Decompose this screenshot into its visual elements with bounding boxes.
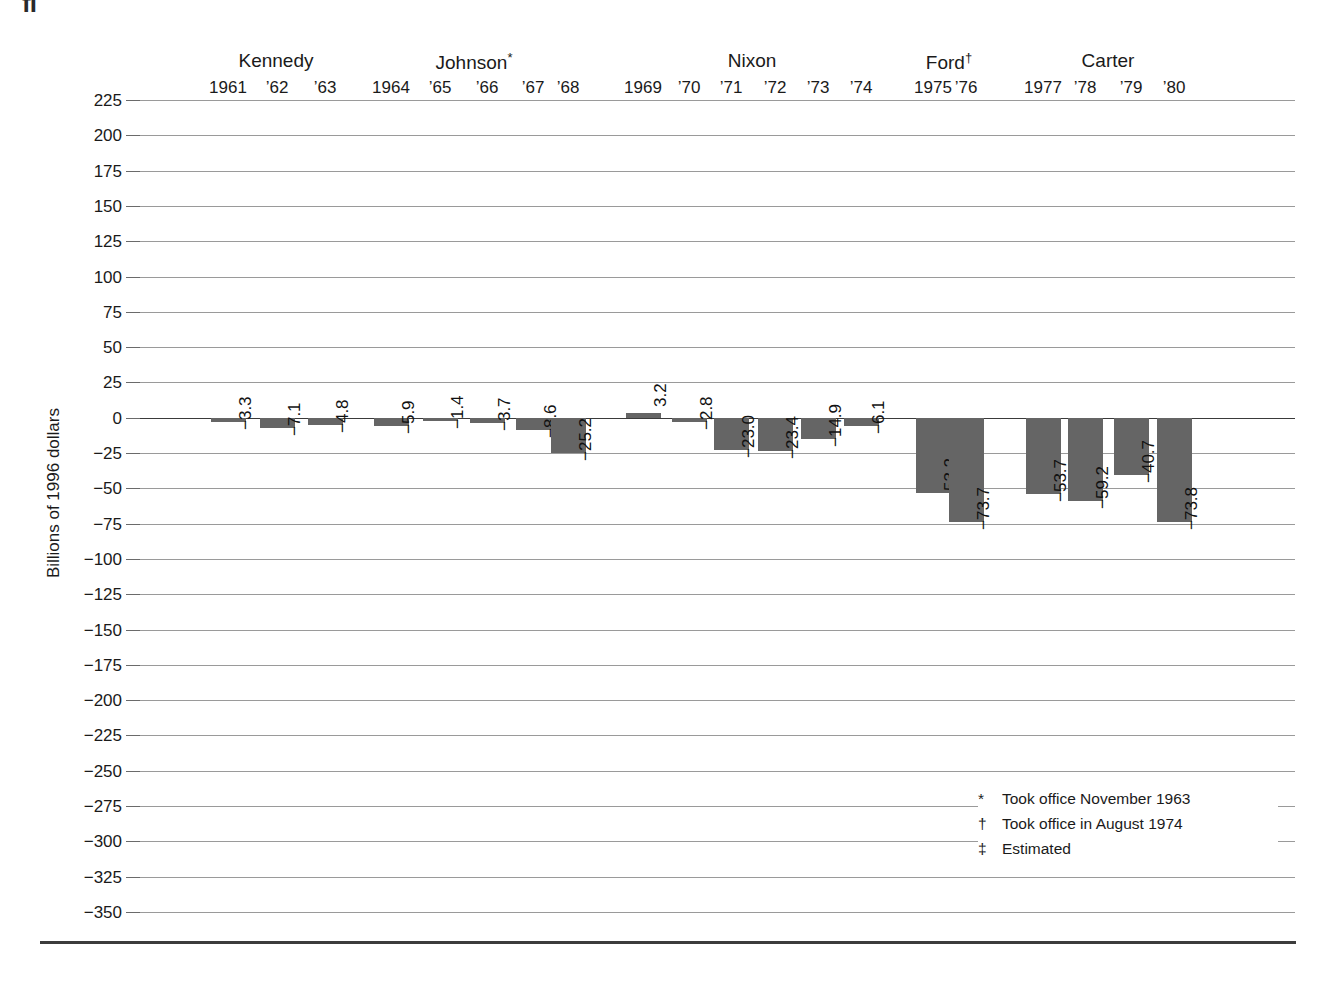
president-group-label-ford: Ford† xyxy=(926,50,972,74)
y-axis-tick xyxy=(126,241,140,242)
gridline xyxy=(140,241,1295,242)
bar-value-label-1971: −23.0 xyxy=(739,415,759,458)
y-axis-tick xyxy=(126,841,140,842)
x-axis-year-label: 1977 xyxy=(1024,78,1062,98)
bar-value-label-1966: −3.7 xyxy=(495,397,515,431)
y-axis-tick xyxy=(126,277,140,278)
footnote-text: Estimated xyxy=(1002,837,1071,860)
x-axis-year-label: ’78 xyxy=(1074,78,1097,98)
y-axis-label: −325 xyxy=(84,868,122,885)
y-axis-label: −150 xyxy=(84,621,122,638)
y-axis-label: −200 xyxy=(84,692,122,709)
x-axis-year-label: ’63 xyxy=(314,78,337,98)
y-axis-tick xyxy=(126,171,140,172)
bar-value-label-1968: −25.2 xyxy=(576,418,596,461)
x-axis-year-label: 1964 xyxy=(372,78,410,98)
y-axis-label: −125 xyxy=(84,586,122,603)
x-axis-year-label: ’72 xyxy=(764,78,787,98)
gridline xyxy=(140,912,1295,913)
y-axis-tick xyxy=(126,488,140,489)
president-group-label-carter: Carter xyxy=(1082,50,1135,72)
footnote-text: Took office in August 1974 xyxy=(1002,812,1183,835)
bar-value-label-1976: −73.7 xyxy=(974,487,994,530)
gridline xyxy=(140,206,1295,207)
y-axis-label: −250 xyxy=(84,762,122,779)
y-axis-tick xyxy=(126,630,140,631)
x-axis-year-label: ’68 xyxy=(557,78,580,98)
y-axis-tick xyxy=(126,524,140,525)
bar-value-label-1974: −6.1 xyxy=(869,401,889,435)
y-axis-label: 150 xyxy=(94,197,122,214)
y-axis-label: 200 xyxy=(94,127,122,144)
y-axis-label: 225 xyxy=(94,92,122,109)
x-axis-year-label: ’66 xyxy=(476,78,499,98)
president-group-label-johnson: Johnson* xyxy=(436,50,513,74)
y-axis-label: 175 xyxy=(94,162,122,179)
x-axis-year-label: ’62 xyxy=(266,78,289,98)
gridline xyxy=(140,488,1295,489)
bar-value-label-1965: −1.4 xyxy=(448,395,468,429)
y-axis-label: 125 xyxy=(94,233,122,250)
gridline xyxy=(140,877,1295,878)
footnote-marker: † xyxy=(978,812,1002,835)
y-axis-tick xyxy=(126,100,140,101)
y-axis-label: −75 xyxy=(93,515,122,532)
gridline xyxy=(140,524,1295,525)
gridline xyxy=(140,382,1295,383)
y-axis-label: −225 xyxy=(84,727,122,744)
gridline xyxy=(140,559,1295,560)
y-axis-label: 0 xyxy=(113,409,122,426)
footnote-marker: ‡ xyxy=(978,837,1002,860)
bar-1969 xyxy=(626,413,661,418)
y-axis-tick xyxy=(126,418,140,419)
y-axis-label: −300 xyxy=(84,833,122,850)
bar-value-label-1980: −73.8 xyxy=(1182,487,1202,530)
x-axis-year-label: ’79 xyxy=(1120,78,1143,98)
y-axis-tick xyxy=(126,806,140,807)
bar-value-label-1962: −7.1 xyxy=(285,402,305,436)
bar-value-label-1964: −5.9 xyxy=(399,401,419,435)
bar-value-label-1963: −4.8 xyxy=(333,399,353,433)
y-axis-label: 100 xyxy=(94,268,122,285)
gridline xyxy=(140,100,1295,101)
y-axis-label: −25 xyxy=(93,445,122,462)
y-axis-tick xyxy=(126,453,140,454)
bottom-rule xyxy=(40,941,1296,944)
y-axis-tick xyxy=(126,312,140,313)
y-axis-label: −175 xyxy=(84,656,122,673)
gridline xyxy=(140,135,1295,136)
gridline xyxy=(140,700,1295,701)
footnote-text: Took office November 1963 xyxy=(1002,787,1190,810)
y-axis-label: 25 xyxy=(103,374,122,391)
chart-header: KennedyJohnson*NixonFord†Carter1961’62’6… xyxy=(0,0,1344,100)
y-axis-tick xyxy=(126,347,140,348)
footnote-row: †Took office in August 1974 xyxy=(978,811,1278,836)
y-axis-tick xyxy=(126,135,140,136)
bar-value-label-1978: −59.2 xyxy=(1093,466,1113,509)
gridline xyxy=(140,171,1295,172)
y-axis-tick xyxy=(126,735,140,736)
y-axis-tick xyxy=(126,912,140,913)
gridline xyxy=(140,771,1295,772)
y-axis-label: −275 xyxy=(84,798,122,815)
y-axis-label: 50 xyxy=(103,339,122,356)
y-axis-label: −50 xyxy=(93,480,122,497)
x-axis-year-label: ’74 xyxy=(850,78,873,98)
x-axis-year-label: ’70 xyxy=(678,78,701,98)
footnote-marker: * xyxy=(978,787,1002,810)
gridline xyxy=(140,312,1295,313)
gridline xyxy=(140,347,1295,348)
gridline xyxy=(140,735,1295,736)
y-axis-title: Billions of 1996 dollars xyxy=(44,408,64,578)
gridline xyxy=(140,277,1295,278)
y-axis-label: 75 xyxy=(103,303,122,320)
footnotes-block: *Took office November 1963†Took office i… xyxy=(978,786,1278,861)
gridline xyxy=(140,594,1295,595)
y-axis-label: −350 xyxy=(84,904,122,921)
y-axis-tick xyxy=(126,382,140,383)
x-axis-year-label: 1969 xyxy=(624,78,662,98)
y-axis-label: −100 xyxy=(84,550,122,567)
y-axis-tick xyxy=(126,594,140,595)
bar-value-label-1969: 3.2 xyxy=(651,384,671,408)
y-axis-tick xyxy=(126,877,140,878)
